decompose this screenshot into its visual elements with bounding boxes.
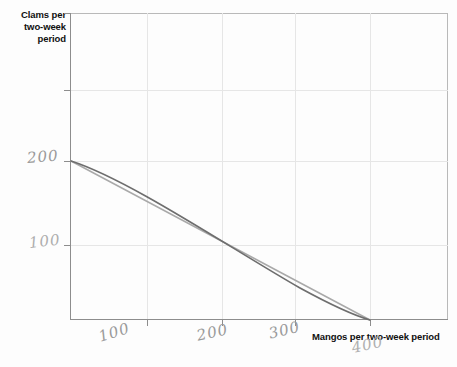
- handwritten-x-tick-200: 200: [195, 320, 230, 345]
- gridline-horizontal: [70, 161, 448, 162]
- chart-screenshot: Clams per two-week period Mangos per two…: [0, 0, 457, 367]
- gridline-vertical: [295, 13, 296, 320]
- y-axis-tick: [64, 90, 71, 91]
- y-axis-tick: [64, 13, 71, 14]
- plot-border-right: [447, 13, 448, 320]
- handwritten-y-tick-200: 200: [26, 146, 59, 167]
- x-axis-tick: [147, 319, 148, 326]
- y-axis-tick: [64, 245, 71, 246]
- gridline-vertical: [147, 13, 148, 320]
- handwritten-x-tick-100: 100: [96, 319, 132, 345]
- plot-border-top: [70, 13, 448, 14]
- gridline-horizontal: [70, 245, 448, 246]
- gridline-horizontal: [70, 90, 448, 91]
- gridline-vertical: [222, 13, 223, 320]
- x-axis-tick: [370, 319, 371, 326]
- handwritten-x-tick-300: 300: [267, 318, 302, 343]
- gridline-vertical: [370, 13, 371, 320]
- x-axis-title: Mangos per two-week period: [312, 331, 457, 343]
- plot-area: [70, 13, 448, 320]
- handwritten-y-tick-100: 100: [28, 231, 61, 252]
- y-axis-line: [70, 13, 71, 320]
- y-axis-title: Clams per two-week period: [0, 9, 66, 45]
- y-axis-tick: [64, 161, 71, 162]
